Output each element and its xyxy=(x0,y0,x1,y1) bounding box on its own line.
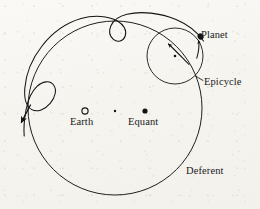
epicyclic-path xyxy=(24,13,204,136)
planet-motion-arrow xyxy=(197,41,199,59)
equant-label: Equant xyxy=(128,117,158,128)
epicycle-rotation-arrow xyxy=(169,44,190,65)
deferent-center-marker xyxy=(114,110,116,112)
epicycle-center-marker xyxy=(174,55,177,58)
planet-label: Planet xyxy=(201,30,228,41)
earth-label: Earth xyxy=(70,117,93,128)
earth-marker xyxy=(82,108,88,114)
deferent-label: Deferent xyxy=(186,166,224,177)
equant-marker xyxy=(142,108,147,113)
deferent-circle xyxy=(28,21,202,195)
ptolemaic-diagram-figure: Planet Epicycle Deferent Earth Equant xyxy=(0,0,260,209)
epicycle-label: Epicycle xyxy=(204,77,242,88)
